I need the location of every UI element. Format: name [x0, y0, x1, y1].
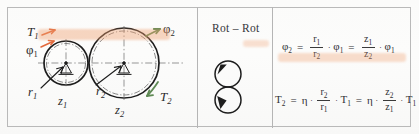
formula2-dot-3: · [400, 95, 403, 105]
symbol-circle-bottom [215, 87, 241, 113]
formula1-equals-1: = [297, 41, 303, 53]
symbol-circle-top [215, 61, 241, 87]
formula2-dot-2: · [375, 95, 378, 105]
formula1-dot-2: · [379, 42, 382, 52]
label-z2: z2 [114, 103, 124, 119]
label-T1: T1 [27, 24, 39, 41]
formula2-equals-2: = [356, 94, 362, 106]
formula1-fraction-z: z1 z2 [362, 34, 375, 61]
formula2-fraction-z: z2 z1 [383, 87, 396, 114]
gear-diagram-cell: T1 φ1 r1 z1 φ2 [8, 8, 197, 126]
formula2-lhs: T [275, 93, 282, 105]
formula2-dot-1: · [335, 95, 338, 105]
label-T2: T2 [160, 89, 172, 106]
formula-torque-ratio: T2 = η · r2 r1 · T1 = η · z2 z1 · T1 [274, 87, 417, 114]
formula2-equals-1: = [290, 94, 296, 106]
formula2-eta-2: η [367, 94, 373, 106]
formula2-fraction-r: r2 r1 [317, 87, 330, 114]
type-cell: Rot – Rot [198, 8, 272, 126]
formula2-dot-0: · [310, 95, 313, 105]
formula1-fraction-r: r1 r2 [310, 34, 323, 61]
formula2-eta-1: η [302, 94, 308, 106]
input-torque-arrow [42, 29, 55, 35]
label-phi1: φ1 [26, 42, 38, 59]
output-angle-arrow [146, 29, 160, 36]
rotation-arrowhead-top [218, 64, 227, 74]
formula1-dot-1: · [328, 42, 331, 52]
label-z1: z1 [57, 94, 67, 110]
formula-cell: φ2 = r1 r2 · φ1 = z1 z2 · φ1 T2 = η · [273, 8, 410, 126]
label-r1: r1 [28, 85, 37, 101]
radius-r2-arrow [96, 66, 121, 85]
gear-pair-drawing: T1 φ1 r1 z1 φ2 [8, 8, 197, 126]
label-phi2: φ2 [163, 21, 175, 38]
rotation-rotation-symbol [198, 8, 272, 126]
label-r2: r2 [96, 84, 105, 100]
formula-angle-ratio: φ2 = r1 r2 · φ1 = z1 z2 · φ1 [281, 34, 396, 61]
rotation-arrowhead-bottom [217, 96, 226, 109]
scanned-table-figure: T1 φ1 r1 z1 φ2 [0, 0, 419, 134]
formula1-equals-2: = [348, 41, 354, 53]
